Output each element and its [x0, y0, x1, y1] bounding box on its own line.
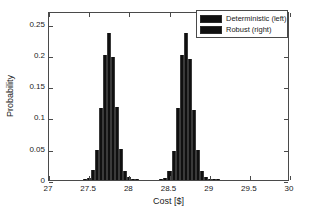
y-tick-label: 0.15	[29, 82, 45, 92]
y-tick-label: 0	[41, 176, 45, 186]
y-tick	[49, 182, 53, 183]
y-tick-label: 0.2	[34, 51, 45, 61]
y-tick	[49, 57, 53, 58]
y-tick-label: 0.1	[34, 113, 45, 123]
y-tick	[49, 88, 53, 89]
x-tick	[170, 13, 171, 17]
x-tick-label: 27.5	[80, 184, 96, 194]
legend-item-robust[interactable]: Robust (right)	[200, 24, 284, 35]
y-tick	[284, 182, 288, 183]
legend-label-robust: Robust (right)	[226, 25, 271, 34]
x-tick-label: 28	[124, 184, 133, 194]
histogram-bars	[49, 13, 288, 180]
x-tick-label: 29.5	[241, 184, 257, 194]
y-tick	[284, 151, 288, 152]
y-tick	[49, 26, 53, 27]
legend[interactable]: Deterministic (left) Robust (right)	[196, 10, 288, 38]
x-tick	[49, 176, 50, 180]
y-tick	[284, 119, 288, 120]
x-axis-label: Cost [$]	[48, 196, 289, 206]
x-tick	[250, 176, 251, 180]
legend-item-deterministic[interactable]: Deterministic (left)	[200, 13, 284, 24]
x-tick	[170, 176, 171, 180]
x-tick-label: 28.5	[161, 184, 177, 194]
histogram-bar	[216, 179, 220, 180]
x-tick	[89, 13, 90, 17]
y-tick-label: 0.05	[29, 145, 45, 155]
y-tick	[284, 88, 288, 89]
legend-swatch-robust	[200, 26, 222, 34]
legend-swatch-deterministic	[200, 15, 222, 23]
legend-label-deterministic: Deterministic (left)	[226, 14, 286, 23]
x-tick	[129, 176, 130, 180]
figure: 2727.52828.52929.530 00.050.10.150.20.25…	[0, 0, 311, 215]
y-tick-label: 0.25	[29, 20, 45, 30]
x-tick	[89, 176, 90, 180]
x-tick	[290, 176, 291, 180]
y-axis-label: Probability	[5, 75, 15, 117]
x-tick	[49, 13, 50, 17]
histogram-bar	[135, 179, 139, 180]
x-tick-label: 29	[204, 184, 213, 194]
y-tick	[49, 119, 53, 120]
y-tick	[49, 151, 53, 152]
x-tick-label: 30	[285, 184, 294, 194]
x-tick	[129, 13, 130, 17]
x-tick	[290, 13, 291, 17]
y-tick	[284, 57, 288, 58]
x-tick	[210, 176, 211, 180]
